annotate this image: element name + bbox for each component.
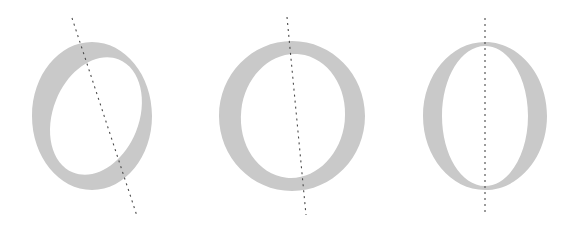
letter-o-glyph [219,41,365,191]
letter-o-glyph [32,42,152,190]
stress-axis-figure [0,0,569,234]
specimen-old-style [0,0,190,234]
specimen-transitional [190,0,380,234]
specimen-didone [380,0,569,234]
